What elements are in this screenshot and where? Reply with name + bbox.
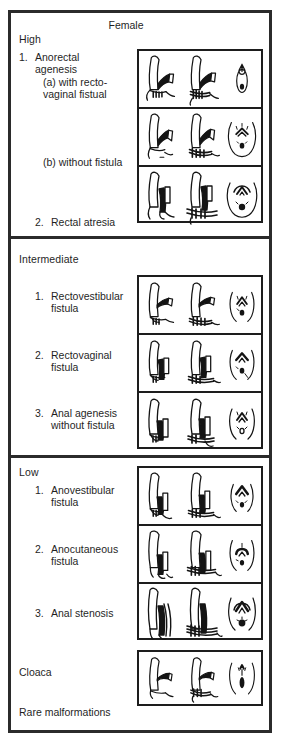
malformation-classification-figure: Female High 1. Anorectal agenesis (a) wi…: [8, 10, 272, 733]
panel-stack-low: [137, 466, 263, 640]
row-label-cloaca: Cloaca: [19, 666, 52, 678]
view-perineum-oval: [223, 393, 261, 451]
view-sagittal-anatomy-muscle: [181, 652, 223, 704]
section-title-high: High: [19, 33, 41, 45]
view-sagittal-anatomy-muscle: [181, 277, 223, 333]
view-sagittal-anatomy-muscle: [181, 393, 223, 451]
panel-stack-high: [137, 49, 263, 223]
view-sagittal-anatomy-muscle: [181, 167, 223, 225]
view-sagittal-anatomy: [139, 167, 181, 225]
view-sagittal-anatomy: [139, 277, 181, 333]
panel-stack-cloaca: [137, 650, 263, 706]
section-intermediate: Intermediate 1. Rectovestibular fistula …: [11, 239, 269, 458]
view-sagittal-anatomy-muscle: [181, 109, 223, 165]
view-sagittal-anatomy: [139, 51, 181, 107]
row-label-anocutaneous-fistula: Anocutaneous fistula: [51, 543, 118, 568]
panel-anocutaneous-fistula[interactable]: [139, 526, 261, 584]
row-label-anorectal-agenesis: Anorectal agenesis: [35, 51, 79, 76]
row-number-low-3: 3.: [35, 607, 44, 619]
view-perineum-oval: [223, 468, 261, 524]
row-number-low-2: 2.: [35, 543, 44, 555]
row-label-rectovestibular-fistula: Rectovestibular fistula: [51, 290, 123, 315]
row-number-high-1: 1.: [19, 51, 28, 63]
row-label-rectovaginal-fistula: Rectovaginal fistula: [51, 349, 112, 374]
view-sagittal-anatomy-muscle: [181, 584, 223, 642]
panel-anorectal-agenesis-without-fistula[interactable]: [139, 109, 261, 167]
panel-anal-agenesis-without-fistula[interactable]: [139, 393, 261, 451]
panel-rectovaginal-fistula[interactable]: [139, 335, 261, 393]
row-number-intermediate-2: 2.: [35, 349, 44, 361]
view-sagittal-anatomy-muscle: [181, 468, 223, 524]
view-perineum-oval: [223, 109, 261, 165]
row-label-without-fistula: (b) without fistula: [43, 156, 122, 168]
view-sagittal-anatomy: [139, 526, 181, 582]
section-low: Low 1. Anovestibular fistula 2. Anocutan…: [11, 458, 269, 730]
view-perineum-oval: [223, 167, 261, 225]
view-sagittal-anatomy: [139, 109, 181, 165]
view-sagittal-anatomy-muscle: [181, 51, 223, 107]
view-sagittal-anatomy: [139, 584, 181, 642]
view-sagittal-anatomy: [139, 468, 181, 524]
row-label-anal-stenosis: Anal stenosis: [51, 607, 113, 619]
row-number-low-1: 1.: [35, 484, 44, 496]
section-title-intermediate: Intermediate: [19, 253, 79, 265]
footer-note-rare-malformations: Rare malformations: [19, 706, 111, 718]
view-perineum-slit: [223, 51, 261, 107]
view-sagittal-anatomy: [139, 393, 181, 451]
view-perineum-oval: [223, 584, 261, 642]
panel-anal-stenosis[interactable]: [139, 584, 261, 642]
panel-anorectal-agenesis-with-rectovaginal-fistula[interactable]: [139, 51, 261, 109]
panel-rectal-atresia[interactable]: [139, 167, 261, 225]
view-sagittal-anatomy: [139, 652, 181, 704]
view-perineum-oval: [223, 526, 261, 582]
section-high: Female High 1. Anorectal agenesis (a) wi…: [11, 13, 269, 239]
panel-cloaca[interactable]: [139, 652, 261, 704]
section-title-low: Low: [19, 466, 39, 478]
view-perineum-slit: [223, 652, 261, 704]
row-label-with-rectovaginal-fistula: (a) with recto- vaginal fistual: [43, 76, 107, 101]
figure-title: Female: [11, 19, 269, 31]
row-number-high-2: 2.: [35, 216, 44, 228]
row-number-intermediate-3: 3.: [35, 407, 44, 419]
panel-anovestibular-fistula[interactable]: [139, 468, 261, 526]
panel-stack-intermediate: [137, 275, 263, 449]
row-number-intermediate-1: 1.: [35, 290, 44, 302]
row-label-anal-agenesis-without-fistula: Anal agenesis without fistula: [51, 407, 117, 432]
row-label-anovestibular-fistula: Anovestibular fistula: [51, 484, 115, 509]
view-sagittal-anatomy-muscle: [181, 335, 223, 391]
view-sagittal-anatomy: [139, 335, 181, 391]
panel-rectovestibular-fistula[interactable]: [139, 277, 261, 335]
view-perineum-oval: [223, 277, 261, 333]
view-perineum-oval: [223, 335, 261, 391]
view-sagittal-anatomy-muscle: [181, 526, 223, 582]
row-label-rectal-atresia: Rectal atresia: [51, 216, 115, 228]
